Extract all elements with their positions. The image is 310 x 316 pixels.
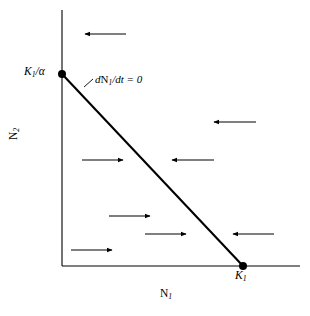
- x-axis-subscript: 1: [168, 292, 172, 301]
- x-axis-title: N1: [160, 288, 172, 301]
- y-intercept-tail: /α: [36, 65, 45, 77]
- y-axis-base: N: [7, 132, 19, 140]
- y-axis-title: N2: [8, 128, 21, 140]
- isocline-suffix: /dt = 0: [112, 73, 142, 85]
- isocline-label-leader: [84, 79, 93, 87]
- y-intercept-base: K: [24, 65, 32, 77]
- x-intercept-subscript: 1: [243, 274, 247, 283]
- competition-isocline-figure: K1/α dN1/dt = 0 K1 N1 N2: [0, 0, 310, 316]
- y-intercept-label: K1/α: [24, 66, 45, 79]
- x-intercept-base: K: [235, 269, 243, 281]
- x-intercept-label: K1: [235, 270, 247, 283]
- isocline-line: [62, 74, 243, 266]
- y-axis-subscript: 2: [12, 128, 21, 132]
- isocline-label: dN1/dt = 0: [95, 74, 142, 87]
- y-intercept-point: [58, 70, 66, 78]
- plot-canvas: [0, 0, 310, 316]
